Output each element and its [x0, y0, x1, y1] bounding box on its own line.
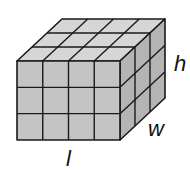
- width-label: w: [148, 116, 166, 141]
- prism-diagram: h w l: [0, 0, 190, 172]
- prism: [17, 19, 165, 140]
- height-label: h: [174, 51, 186, 76]
- length-label: l: [66, 146, 72, 171]
